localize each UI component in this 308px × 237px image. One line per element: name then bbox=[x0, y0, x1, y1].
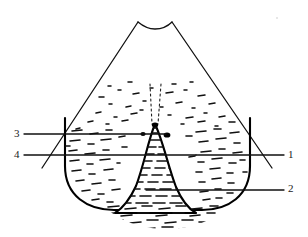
label-3: 3 bbox=[14, 128, 20, 139]
diagram-canvas bbox=[0, 0, 308, 237]
label-1: 1 bbox=[288, 149, 294, 160]
upper-cone-stipple bbox=[76, 82, 235, 129]
scan-speck bbox=[276, 17, 278, 19]
volcano-diagram-figure: 3 4 1 2 bbox=[0, 0, 308, 237]
label-4: 4 bbox=[14, 149, 20, 160]
dotted-conduit-lines bbox=[150, 84, 161, 124]
label-2: 2 bbox=[288, 183, 294, 194]
